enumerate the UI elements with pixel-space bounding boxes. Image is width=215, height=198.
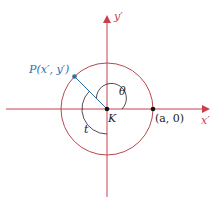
- point-a-label: (a, 0): [155, 112, 184, 125]
- point-p-label: P(x′, y′): [28, 63, 69, 76]
- center-label: K: [107, 112, 117, 125]
- theta-label: θ: [119, 85, 126, 98]
- y-axis-label: y′: [113, 10, 123, 23]
- center-point: [105, 107, 110, 112]
- point-a: [151, 107, 156, 112]
- radius-line: [75, 77, 108, 110]
- t-label: t: [84, 123, 89, 136]
- diagram: y′ x′ P(x′, y′) K (a, 0) θ t: [0, 0, 215, 198]
- diagram-canvas: y′ x′ P(x′, y′) K (a, 0) θ t: [0, 0, 215, 198]
- point-p: [72, 74, 77, 79]
- x-axis-label: x′: [201, 114, 210, 127]
